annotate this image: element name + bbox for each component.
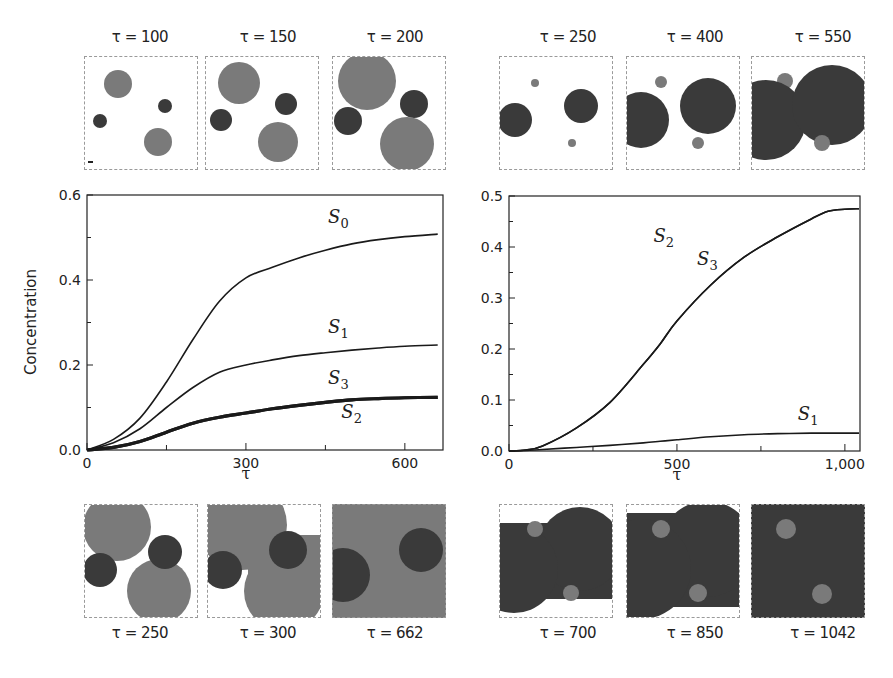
curve-labels: S2S3S1 — [653, 225, 818, 429]
snapshot-label: τ = 200 — [340, 28, 450, 46]
y-tick-label: 0.1 — [481, 392, 503, 408]
x-tick-label: 0 — [83, 455, 92, 471]
snapshot-image-bottom-right-2 — [626, 504, 740, 618]
snapshot-image-top-left-1 — [84, 56, 198, 170]
label-s2: S2 — [341, 401, 362, 426]
x-tick-label: 0 — [505, 456, 514, 472]
y-tick-label: 0.0 — [59, 442, 81, 458]
label-s3: S3 — [697, 248, 718, 273]
cluster-snapshot — [627, 505, 739, 617]
snapshot-label: τ = 250 — [513, 28, 623, 46]
snapshot-label: τ = 550 — [768, 28, 878, 46]
snapshot-label: τ = 100 — [85, 28, 195, 46]
y-tick-label: 0.3 — [481, 290, 503, 306]
label-s3: S3 — [328, 367, 349, 392]
snapshot-image-bottom-left-2 — [207, 504, 321, 618]
x-tick-label: 1,000 — [825, 456, 865, 472]
cluster-snapshot — [627, 57, 739, 169]
snapshot-image-top-left-3 — [332, 56, 446, 170]
y-axis-label: Concentration — [22, 269, 40, 375]
y-axis-ticks: 0.00.10.20.30.40.5 — [481, 188, 515, 459]
snapshot-label: τ = 850 — [640, 624, 750, 642]
y-tick-label: 0.0 — [481, 443, 503, 459]
plot-left: 0.00.20.40.6 0300600 S0S1S3S2 Concentrat… — [0, 180, 460, 480]
snapshot-image-top-left-2 — [205, 56, 319, 170]
snapshot-image-bottom-right-3 — [751, 504, 865, 618]
curve-s1 — [509, 433, 859, 451]
snapshot-label: τ = 250 — [85, 624, 195, 642]
snapshot-label: τ = 700 — [513, 624, 623, 642]
cluster-snapshot — [333, 57, 445, 169]
x-axis-label: τ — [242, 464, 251, 480]
snapshot-label: τ = 662 — [340, 624, 450, 642]
snapshot-image-top-right-2 — [626, 56, 740, 170]
snapshot-image-bottom-right-1 — [499, 504, 613, 618]
plot-frame — [87, 195, 443, 450]
cluster-snapshot — [85, 505, 197, 617]
x-axis-label: τ — [673, 465, 682, 480]
snapshot-label: τ = 400 — [640, 28, 750, 46]
cluster-snapshot — [500, 57, 612, 169]
y-tick-label: 0.2 — [59, 357, 81, 373]
snapshot-image-bottom-left-3 — [332, 504, 446, 618]
cluster-snapshot — [208, 505, 320, 617]
snapshot-image-bottom-left-1 — [84, 504, 198, 618]
label-s2: S2 — [653, 225, 674, 250]
plot-right: 0.00.10.20.30.40.5 05001,000 S2S3S1 τ — [460, 180, 893, 480]
x-tick-label: 600 — [391, 455, 418, 471]
cluster-snapshot — [85, 57, 197, 169]
snapshot-label: τ = 1042 — [768, 624, 878, 642]
label-s0: S0 — [328, 206, 349, 231]
cluster-snapshot — [500, 505, 612, 617]
y-tick-label: 0.6 — [59, 187, 81, 203]
y-tick-label: 0.2 — [481, 341, 503, 357]
snapshot-image-top-right-3 — [751, 56, 865, 170]
y-tick-label: 0.5 — [481, 188, 503, 204]
cluster-snapshot — [752, 505, 864, 617]
label-s1: S1 — [328, 316, 349, 341]
curve-s0 — [87, 234, 438, 450]
snapshot-label: τ = 300 — [213, 624, 323, 642]
curves — [87, 234, 438, 450]
snapshot-image-top-right-1 — [499, 56, 613, 170]
y-tick-label: 0.4 — [59, 272, 81, 288]
y-axis-ticks: 0.00.20.40.6 — [59, 187, 93, 458]
cluster-snapshot — [752, 57, 864, 169]
curve-s3 — [87, 397, 438, 450]
cluster-snapshot — [206, 57, 318, 169]
cluster-snapshot — [333, 505, 445, 617]
snapshot-label: τ = 150 — [213, 28, 323, 46]
y-tick-label: 0.4 — [481, 239, 503, 255]
curve-labels: S0S1S3S2 — [328, 206, 362, 427]
label-s1: S1 — [798, 403, 819, 428]
